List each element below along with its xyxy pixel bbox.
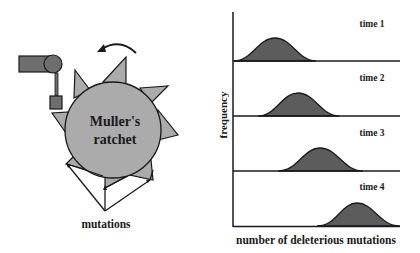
ratchet-illustration: Muller's ratchet mutations — [19, 44, 178, 230]
mutations-label: mutations — [81, 218, 131, 230]
ratchet-title-line1: Muller's — [90, 114, 141, 129]
panel-label-time-2: time 2 — [359, 73, 384, 83]
distribution-time-1 — [234, 38, 316, 61]
pawl-icon — [19, 55, 62, 109]
curved-arrow-icon — [97, 44, 136, 53]
distribution-time-4 — [317, 203, 400, 226]
ratchet-gear — [65, 82, 161, 178]
y-axis-label: frequency — [217, 91, 229, 138]
frequency-chart: time 1 time 2 time 3 time 4 frequency nu… — [217, 12, 400, 246]
x-axis-label: number of deleterious mutations — [236, 234, 396, 246]
distribution-time-3 — [278, 148, 363, 171]
panel-label-time-1: time 1 — [359, 19, 384, 29]
gear-tooth — [103, 57, 126, 84]
panel-label-time-3: time 3 — [359, 128, 384, 138]
panel-baselines — [233, 61, 400, 227]
distribution-time-2 — [258, 93, 339, 116]
panel-label-time-4: time 4 — [359, 182, 384, 192]
diagram-canvas: Muller's ratchet mutations — [0, 0, 420, 253]
ratchet-title-line2: ratchet — [94, 132, 137, 147]
